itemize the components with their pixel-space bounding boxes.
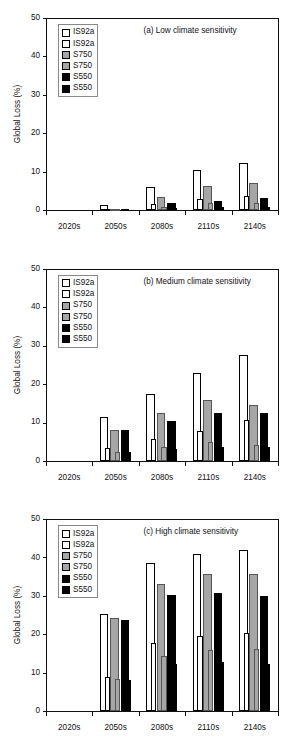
bar-IS92a-2050s-inner (105, 209, 110, 211)
x-tick-mark (185, 462, 186, 466)
bar-IS92a-2050s-inner (105, 448, 110, 460)
legend-item: S550 (62, 72, 94, 83)
legend-item: IS92a (62, 278, 94, 289)
bar-S550-2050s-inner (125, 452, 130, 460)
y-axis-line (46, 18, 47, 211)
x-tick-mark (232, 462, 233, 466)
black-square-icon (62, 85, 70, 93)
x-axis-line (46, 461, 279, 462)
legend-item: IS92a (62, 528, 94, 539)
white-square-icon (62, 290, 70, 298)
x-tick-mark (185, 211, 186, 215)
legend-item: S550 (62, 83, 94, 94)
bar-S550-2140s-inner (265, 664, 270, 711)
x-tick-mark (185, 712, 186, 716)
x-tick-mark (232, 712, 233, 716)
figure-root: 01020304050Global Loss (%)(a) Low climat… (0, 0, 290, 752)
legend-item: S750 (62, 311, 94, 322)
white-square-icon (62, 29, 70, 37)
legend-item-label: S550 (73, 586, 92, 594)
plot-frame-top (46, 519, 279, 520)
x-tick-label-2050s: 2050s (92, 473, 138, 482)
x-tick-label-2080s: 2080s (139, 222, 185, 231)
gray-square-icon (62, 563, 70, 571)
white-square-icon (62, 40, 70, 48)
gray-square-icon (62, 62, 70, 70)
black-square-icon (62, 586, 70, 594)
x-tick-mark (46, 462, 47, 466)
bar-S750-2140s-inner (254, 203, 259, 210)
plot-area: 01020304050Global Loss (%)(a) Low climat… (0, 0, 290, 251)
chart-panel-a: 01020304050Global Loss (%)(a) Low climat… (0, 0, 290, 251)
legend-item-label: S750 (73, 552, 92, 560)
legend-item-label: IS92a (73, 40, 94, 48)
bar-S750-2080s-inner (161, 656, 166, 711)
plot-frame-top (46, 269, 279, 270)
plot-frame-right (278, 519, 279, 712)
y-tick-mark (43, 519, 46, 520)
y-axis-title: Global Loss (%) (13, 305, 22, 425)
legend-item-label: IS92a (73, 28, 94, 36)
legend-item: IS92a (62, 289, 94, 300)
x-tick-mark-end (278, 712, 279, 716)
legend-item: S550 (62, 334, 94, 345)
y-tick-label: 0 (18, 706, 40, 715)
panel-title: (a) Low climate sensitivity (143, 26, 236, 35)
x-tick-label-2110s: 2110s (185, 222, 231, 231)
bar-IS92a-2140s-inner (244, 420, 249, 461)
legend-item-label: IS92a (73, 279, 94, 287)
black-square-icon (62, 575, 70, 583)
legend-item: S550 (62, 584, 94, 595)
bar-S550-2080s-inner (172, 449, 177, 460)
x-tick-label-2050s: 2050s (92, 723, 138, 732)
plot-area: 01020304050Global Loss (%)(c) High clima… (0, 501, 290, 752)
gray-square-icon (62, 552, 70, 560)
x-tick-label-2020s: 2020s (46, 222, 92, 231)
legend-item-label: IS92a (73, 541, 94, 549)
x-tick-mark (92, 712, 93, 716)
y-tick-label: 50 (18, 264, 40, 273)
y-tick-mark (43, 673, 46, 674)
gray-square-icon (62, 313, 70, 321)
legend-item: S750 (62, 300, 94, 311)
bar-S750-2050s-inner (115, 679, 120, 711)
y-tick-mark (43, 346, 46, 347)
black-square-icon (62, 324, 70, 332)
legend-item: IS92a (62, 539, 94, 550)
x-tick-label-2080s: 2080s (139, 473, 185, 482)
x-tick-mark (139, 211, 140, 215)
x-tick-mark (92, 211, 93, 215)
bar-IS92a-2140s-inner (244, 633, 249, 711)
bar-S750-2110s-inner (208, 650, 213, 711)
chart-panel-b: 01020304050Global Loss (%)(b) Medium cli… (0, 251, 290, 502)
bar-IS92a-2110s-inner (197, 636, 202, 711)
bar-IS92a-2110s-inner (197, 431, 202, 461)
y-tick-label: 50 (18, 13, 40, 22)
x-tick-mark (139, 462, 140, 466)
bar-IS92a-2140s-inner (244, 196, 249, 210)
bar-S550-2110s-inner (218, 662, 223, 711)
legend-item-label: S750 (73, 563, 92, 571)
legend-item-label: IS92a (73, 290, 94, 298)
y-tick-mark (43, 56, 46, 57)
bar-IS92a-2050s-inner (105, 677, 110, 712)
legend-item: S750 (62, 562, 94, 573)
x-tick-label-2140s: 2140s (232, 723, 278, 732)
x-tick-label-2020s: 2020s (46, 473, 92, 482)
bar-S750-2110s-inner (208, 442, 213, 460)
x-tick-mark-end (278, 211, 279, 215)
bar-IS92a-2080s-inner (151, 439, 156, 460)
white-square-icon (62, 530, 70, 538)
legend-item-label: S750 (73, 301, 92, 309)
x-tick-label-2020s: 2020s (46, 723, 92, 732)
plot-area: 01020304050Global Loss (%)(b) Medium cli… (0, 251, 290, 502)
bar-S550-2140s-inner (265, 207, 270, 210)
x-axis-line (46, 711, 279, 712)
plot-frame-right (278, 269, 279, 462)
y-axis-title: Global Loss (%) (13, 54, 22, 174)
x-tick-mark (92, 462, 93, 466)
legend-item-label: S550 (73, 324, 92, 332)
y-tick-mark (43, 634, 46, 635)
legend-item-label: S550 (73, 574, 92, 582)
legend-item: S750 (62, 61, 94, 72)
